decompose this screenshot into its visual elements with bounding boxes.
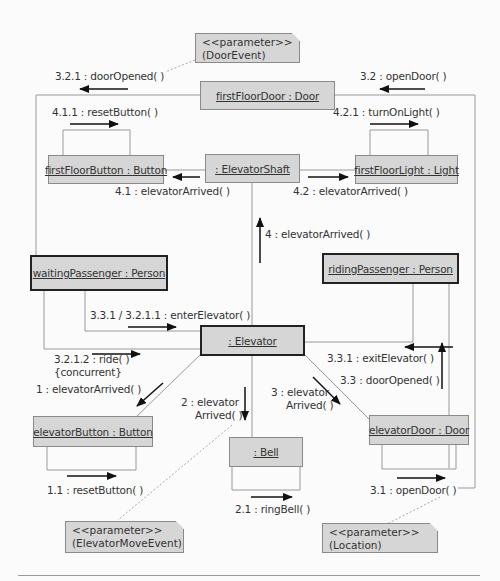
message-4-2-1: 4.2.1 : turnOnLight( ): [333, 106, 440, 119]
note-stereotype: <<parameter>>: [202, 36, 293, 49]
note-text: (DoorEvent): [202, 49, 293, 62]
note-text: (ElevatorMoveEvent): [72, 537, 177, 550]
object-first-floor-light[interactable]: firstFloorLight : Light: [355, 155, 458, 184]
object-elevator-shaft[interactable]: : ElevatorShaft: [205, 154, 300, 183]
message-3-3-1: 3.3.1 : exitElevator( ): [327, 352, 434, 365]
note-fold-icon: [292, 33, 300, 41]
message-3-line2: Arrived( ): [286, 399, 333, 412]
note-stereotype: <<parameter>>: [72, 524, 177, 537]
message-4-1-1: 4.1.1 : resetButton( ): [52, 106, 158, 119]
message-3-2: 3.2 : openDoor( ): [360, 70, 447, 83]
note-stereotype: <<parameter>>: [329, 526, 431, 539]
object-elevator-button[interactable]: elevatorButton : Button: [33, 416, 153, 447]
message-enter-elevator: 3.3.1 / 3.2.1.1 : enterElevator( ): [90, 309, 250, 322]
message-1: 1 : elevatorArrived( ): [36, 383, 141, 396]
note-fold-icon: [176, 521, 184, 529]
message-2-line2: Arrived( ): [195, 409, 242, 422]
message-ride-constraint: {concurrent}: [54, 366, 122, 379]
message-2-line1: 2 : elevator: [181, 396, 239, 409]
message-2-1: 2.1 : ringBell( ): [235, 503, 310, 516]
object-waiting-passenger[interactable]: waitingPassenger : Person: [30, 255, 168, 291]
object-first-floor-door[interactable]: firstFloorDoor : Door: [200, 81, 335, 110]
note-location: <<parameter>> (Location): [322, 523, 438, 553]
note-elevator-move-event: <<parameter>> (ElevatorMoveEvent): [65, 521, 184, 553]
object-riding-passenger[interactable]: ridingPassenger : Person: [322, 253, 459, 284]
note-fold-icon: [430, 523, 438, 531]
object-elevator[interactable]: : Elevator: [200, 325, 305, 356]
message-4: 4 : elevatorArrived( ): [265, 228, 370, 241]
message-3-1: 3.1 : openDoor( ): [370, 484, 457, 497]
message-1-1: 1.1 : resetButton( ): [47, 484, 143, 497]
note-text: (Location): [329, 539, 431, 552]
message-3-3: 3.3 : doorOpened( ): [340, 374, 440, 387]
message-3-line1: 3 : elevator: [271, 386, 329, 399]
object-bell[interactable]: : Bell: [229, 437, 303, 467]
message-3-2-1: 3.2.1 : doorOpened( ): [55, 70, 164, 83]
object-first-floor-button[interactable]: firstFloorButton : Button: [48, 155, 164, 184]
note-door-event: <<parameter>> (DoorEvent): [195, 33, 300, 63]
message-ride: 3.2.1.2 : ride( ): [54, 353, 129, 366]
object-elevator-door[interactable]: elevatorDoor : Door: [369, 415, 469, 445]
message-4-2: 4.2 : elevatorArrived( ): [293, 185, 408, 198]
message-4-1: 4.1 : elevatorArrived( ): [115, 185, 230, 198]
